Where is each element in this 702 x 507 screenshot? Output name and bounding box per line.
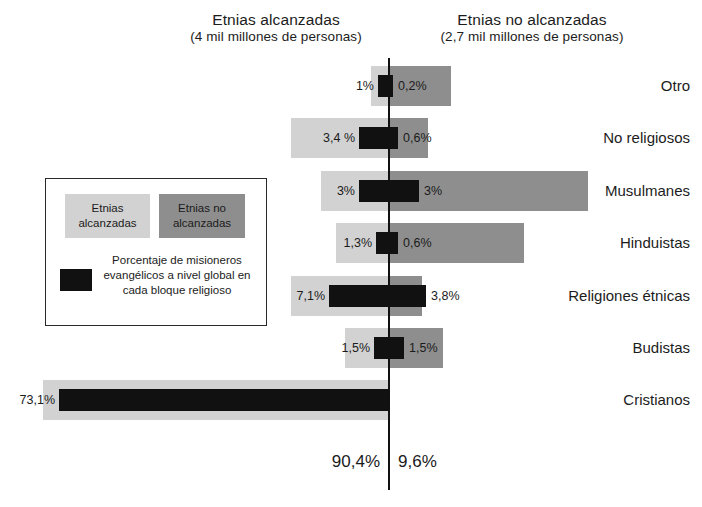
value-label-reached: 1,3% [344,237,373,250]
value-label-unreached: 3% [424,185,442,198]
value-label-reached: 73,1% [20,394,55,407]
column-header-reached-subtitle: (4 mil millones de personas) [148,29,404,46]
bar-missionary-percentage [359,127,398,149]
center-axis-line [388,58,390,490]
chart-row: 3,4 %0,6%No religiosos [0,118,702,158]
column-header-unreached: Etnias no alcanzadas (2,7 mil millones d… [404,10,660,46]
value-label-unreached: 3,8% [431,290,460,303]
value-label-reached: 1,5% [342,342,371,355]
value-label-reached: 3% [337,185,355,198]
value-label-reached: 7,1% [297,290,326,303]
category-label: No religiosos [603,129,690,146]
value-label-unreached: 0,2% [398,80,427,93]
chart-row: 73,1%Cristianos [0,380,702,420]
column-header-unreached-subtitle: (2,7 mil millones de personas) [404,29,660,46]
value-label-reached: 3,4 % [323,132,355,145]
chart-row: 1,5%1,5%Budistas [0,328,702,368]
category-label: Hinduistas [620,234,690,251]
value-label-reached: 1% [356,80,374,93]
legend-swatch-reached: Etnias alcanzadas [65,194,150,238]
total-unreached: 9,6% [398,452,460,472]
chart-row: 1%0,2%Otro [0,66,702,106]
legend-box: Etnias alcanzadas Etnias no alcanzadas P… [45,178,267,326]
value-label-unreached: 0,6% [403,237,432,250]
category-label: Otro [661,77,690,94]
value-label-unreached: 1,5% [409,342,438,355]
value-label-unreached: 0,6% [403,132,432,145]
legend-swatch-missionary [60,269,92,291]
category-label: Cristianos [623,391,690,408]
bar-missionary-percentage [59,389,389,411]
bar-missionary-percentage [378,75,393,97]
category-label: Musulmanes [605,182,690,199]
column-header-unreached-title: Etnias no alcanzadas [404,10,660,29]
column-header-reached-title: Etnias alcanzadas [148,10,404,29]
legend-missionary-note: Porcentaje de misioneros evangélicos a n… [98,253,256,299]
column-header-reached: Etnias alcanzadas (4 mil millones de per… [148,10,404,46]
category-label: Budistas [632,339,690,356]
chart-container: Etnias alcanzadas (4 mil millones de per… [0,0,702,507]
bar-missionary-percentage [376,232,398,254]
category-label: Religiones étnicas [568,287,690,304]
total-reached: 90,4% [318,452,380,472]
legend-swatch-unreached: Etnias no alcanzadas [159,194,245,238]
bar-missionary-percentage [329,285,426,307]
